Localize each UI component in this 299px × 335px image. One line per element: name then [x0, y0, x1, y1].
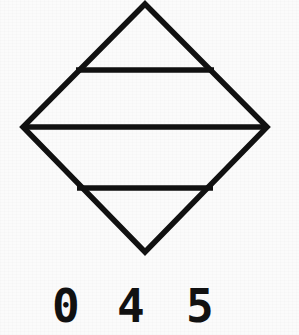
diamond-diagram	[0, 0, 299, 270]
digit-label-0: 0	[52, 283, 80, 329]
digit-label-row: 0 4 5	[0, 276, 299, 332]
digit-label-4: 4	[117, 283, 145, 329]
figure-root: 0 4 5	[0, 0, 299, 335]
digit-label-5: 5	[186, 283, 214, 329]
